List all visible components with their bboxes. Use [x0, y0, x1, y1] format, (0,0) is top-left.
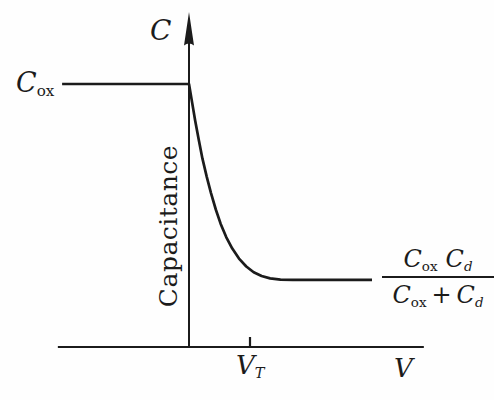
capacitance-axis-text: Capacitance	[154, 145, 183, 307]
y-axis-symbol-label: C	[150, 17, 171, 45]
y-axis-arrowhead-icon	[184, 12, 194, 46]
fraction-den-cd-sub: d	[475, 295, 484, 310]
fraction-num-cox-sub: ox	[422, 259, 438, 274]
vt-tick-label: VT	[236, 352, 264, 378]
min-capacitance-fraction: CoxCd Cox+Cd	[382, 247, 494, 307]
plus-sign: +	[431, 283, 451, 307]
fraction-denominator: Cox+Cd	[382, 276, 494, 307]
fraction-num-cd-base: C	[446, 245, 464, 273]
fraction-term-cd: Cd	[446, 247, 473, 271]
capacitance-axis-label: Capacitance	[156, 145, 181, 307]
cox-subscript-text: ox	[37, 82, 55, 100]
x-axis-symbol-label: V	[394, 355, 413, 381]
fraction-den-cox-sub: ox	[411, 295, 427, 310]
cox-base-text: C	[16, 67, 37, 98]
fraction-term-cox: Cox	[403, 247, 437, 271]
fraction-den-cd-base: C	[457, 281, 475, 309]
y-axis-symbol-text: C	[150, 14, 171, 47]
fraction-den-term-cd: Cd	[457, 283, 484, 307]
fraction-den-cox-base: C	[392, 281, 410, 309]
x-axis-symbol-text: V	[394, 353, 413, 383]
fraction-num-cd-sub: d	[464, 259, 473, 274]
cv-curve	[62, 84, 372, 280]
cox-label: Cox	[16, 69, 54, 96]
fraction-den-term-cox: Cox	[392, 283, 426, 307]
plot-svg	[0, 0, 494, 400]
cv-figure: C Cox Capacitance VT V CoxCd Cox+Cd	[0, 0, 494, 400]
vt-base-text: V	[236, 350, 255, 380]
vt-subscript-text: T	[255, 364, 265, 381]
fraction-num-cox-base: C	[403, 245, 421, 273]
fraction-numerator: CoxCd	[382, 247, 494, 276]
